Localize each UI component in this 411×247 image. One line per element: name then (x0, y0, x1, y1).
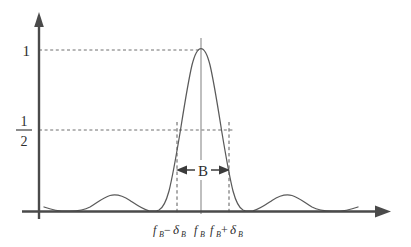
x-tick-upper-base: f (210, 223, 215, 237)
bandwidth-label: B (198, 163, 208, 179)
x-tick-upper-delta: δ (230, 222, 237, 237)
y-label-half: 1 2 (16, 114, 32, 149)
y-label-half-numerator: 1 (21, 114, 28, 129)
x-tick-label-upper-cutoff: f B + δ B (210, 222, 243, 239)
y-axis-arrowhead-icon (34, 12, 44, 27)
y-label-half-denominator: 2 (21, 134, 28, 149)
x-tick-upper-operator: + (221, 223, 228, 237)
x-tick-lower-delta-subscript: B (181, 230, 186, 239)
x-tick-upper-delta-subscript: B (238, 230, 243, 239)
x-tick-lower-delta: δ (173, 222, 180, 237)
x-tick-center-base-subscript: B (200, 230, 205, 239)
x-tick-lower-base: f (153, 223, 158, 237)
bandwidth-arrow-left-head-icon (176, 166, 187, 175)
x-tick-label-lower-cutoff: f B − δ B (153, 222, 186, 239)
x-tick-center-base: f (194, 223, 199, 237)
x-axis-arrowhead-icon (375, 205, 391, 217)
x-tick-label-center: f B (194, 223, 205, 239)
x-tick-lower-operator: − (164, 223, 171, 237)
y-label-unity: 1 (23, 43, 31, 59)
spectrum-figure: B 1 1 2 f B − δ B f B f B + δ B (0, 0, 411, 247)
